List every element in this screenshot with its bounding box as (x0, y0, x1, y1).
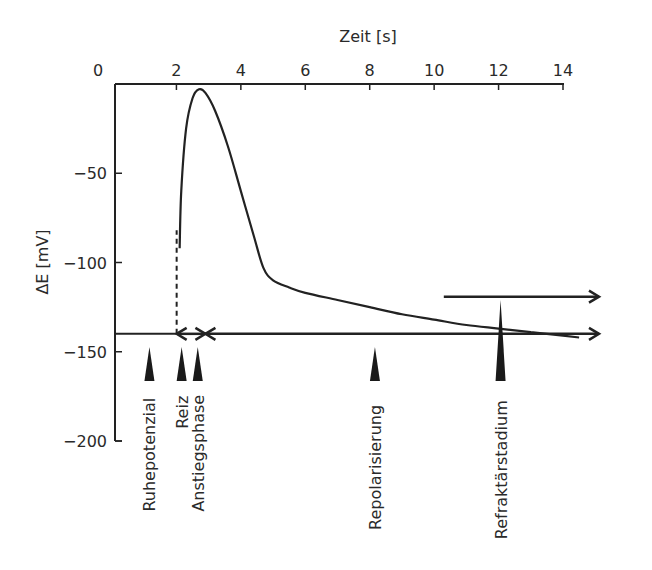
marker-triangle (370, 347, 380, 381)
marker-label: Repolarisierung (366, 405, 385, 530)
membrane-potential-curve (115, 89, 579, 337)
x-tick-label: 10 (424, 61, 444, 80)
x-tick-label: 0 (93, 61, 103, 80)
y-axis-left: −50−100−150−200 (63, 84, 122, 451)
x-tick-label: 8 (365, 61, 375, 80)
phase-markers: RuhepotenzialReizAnstiegsphaseRepolarisi… (140, 300, 510, 539)
y-axis-title: ΔE [mV] (33, 229, 52, 294)
y-tick-label: −100 (63, 254, 107, 273)
x-tick-label: 12 (488, 61, 508, 80)
marker-triangle (496, 300, 506, 381)
x-tick-label: 14 (553, 61, 573, 80)
x-axis-top: 02468101214 (93, 61, 573, 90)
marker-triangle (193, 347, 203, 381)
marker-triangle (144, 347, 154, 381)
marker-label: Refraktärstadium (492, 400, 511, 539)
x-tick-label: 2 (171, 61, 181, 80)
x-tick-label: 6 (300, 61, 310, 80)
marker-triangle (177, 347, 187, 381)
y-tick-label: −50 (73, 164, 107, 183)
x-tick-label: 4 (236, 61, 246, 80)
y-tick-label: −150 (63, 343, 107, 362)
y-tick-label: −200 (63, 432, 107, 451)
marker-label: Ruhepotenzial (140, 398, 159, 512)
x-axis-title: Zeit [s] (339, 27, 396, 46)
action-potential-chart: 02468101214 −50−100−150−200 Zeit [s] ΔE … (0, 0, 652, 570)
marker-label: Anstiegsphase (189, 395, 208, 512)
